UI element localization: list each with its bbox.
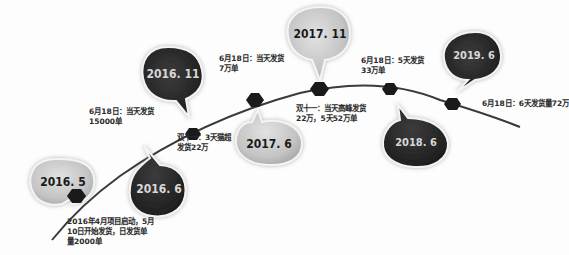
milestone-desc-2017-11: 双十一：当天高峰发货 22万，5天52万单 [296,104,366,124]
milestone-desc-2017-6: 6月18日：当天发货 7万单 [219,54,284,74]
bubble-date-2017-11: 2017. 11 [290,27,350,41]
bubble-date-2016-6: 2016. 6 [134,182,184,196]
node-2019-6 [444,98,461,110]
node-2017-11 [310,82,329,96]
bubble-date-2017-6: 2017. 6 [240,137,298,151]
milestone-desc-2016-11: 6月18日：当天发货 15000单 [89,107,154,127]
milestone-desc-2019-6: 6月18日：6天发货量72万 [482,99,569,109]
milestone-desc-2016-6: 双十一：3天猫超 发货22万 [177,133,231,153]
bubble-date-2016-11: 2016. 11 [144,67,202,81]
node-2018-6 [382,83,398,95]
bubble-2019-6 [444,32,501,92]
milestone-desc-2016-5: 2016年4月项目启动，5月 10日开始发货，日发货单 量2000单 [67,217,154,247]
bubble-date-2019-6: 2019. 6 [448,49,500,62]
bubble-2017-11 [288,7,350,80]
bubble-date-2018-6: 2018. 6 [388,136,444,149]
bubble-date-2016-5: 2016. 5 [38,175,88,189]
milestone-desc-2018-6: 6月18日：5天发货 33万单 [361,56,424,76]
